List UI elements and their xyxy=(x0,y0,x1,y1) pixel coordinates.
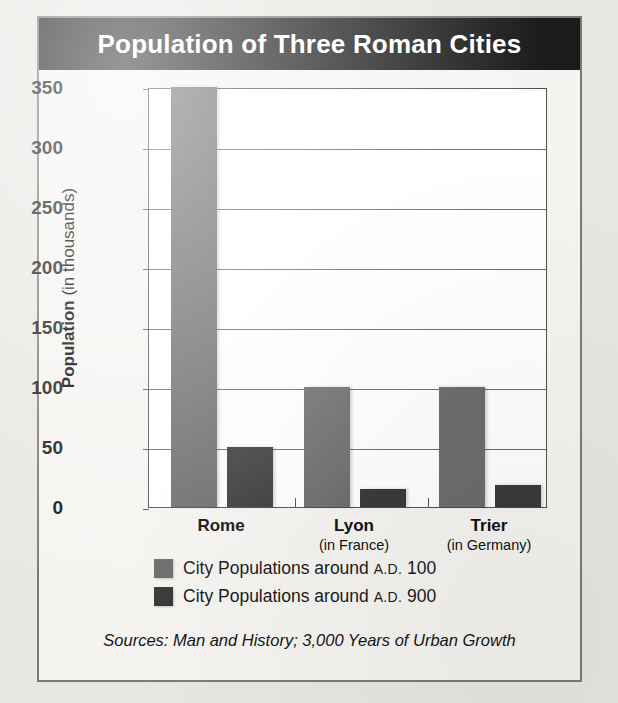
bar-lyon-ad900 xyxy=(360,489,406,507)
y-axis-title: Population (in thousands) xyxy=(59,108,79,468)
y-tick-mark-150 xyxy=(143,329,149,330)
x-label-lyon: Lyon(in France) xyxy=(319,516,389,553)
y-tick-mark-100 xyxy=(143,389,149,390)
y-tick-label-200: 200 xyxy=(3,257,63,279)
source-note: Sources: Man and History; 3,000 Years of… xyxy=(39,631,580,650)
y-tick-label-50: 50 xyxy=(3,437,63,459)
legend-label-prefix: City Populations around xyxy=(183,586,374,606)
legend-swatch-icon xyxy=(154,559,173,578)
legend-label-year: 100 xyxy=(402,558,436,578)
x-label-rome: Rome xyxy=(197,516,244,536)
y-tick-label-0: 0 xyxy=(3,497,63,519)
y-tick-mark-300 xyxy=(143,149,149,150)
legend-label-era: A.D. xyxy=(374,561,402,577)
bar-rome-ad900 xyxy=(227,447,273,507)
y-tick-mark-0 xyxy=(143,509,149,510)
y-tick-mark-350 xyxy=(143,89,149,90)
legend-label-prefix: City Populations around xyxy=(183,558,374,578)
legend-swatch-icon xyxy=(154,587,173,606)
x-label-sub: (in France) xyxy=(319,537,389,553)
bar-trier-ad100 xyxy=(439,387,485,507)
legend-item-ad100: City Populations around A.D. 100 xyxy=(154,558,436,579)
x-tick-mark-0 xyxy=(295,498,296,507)
legend-label-year: 900 xyxy=(402,586,436,606)
x-label-name: Rome xyxy=(197,516,244,536)
y-tick-label-250: 250 xyxy=(3,197,63,219)
legend-label-era: A.D. xyxy=(374,589,402,605)
y-tick-label-150: 150 xyxy=(3,317,63,339)
y-tick-mark-50 xyxy=(143,449,149,450)
y-tick-mark-250 xyxy=(143,209,149,210)
chart-title: Population of Three Roman Cities xyxy=(98,29,522,60)
bar-rome-ad100 xyxy=(171,87,217,507)
y-tick-label-100: 100 xyxy=(3,377,63,399)
y-tick-label-300: 300 xyxy=(3,137,63,159)
chart-title-banner: Population of Three Roman Cities xyxy=(39,18,580,70)
y-tick-label-350: 350 xyxy=(3,77,63,99)
x-tick-mark-1 xyxy=(428,498,429,507)
bar-lyon-ad100 xyxy=(304,387,350,507)
legend-label: City Populations around A.D. 900 xyxy=(183,586,436,607)
chart-legend: City Populations around A.D. 100City Pop… xyxy=(154,558,436,614)
y-axis-title-bold: Population xyxy=(59,300,78,388)
x-label-name: Lyon xyxy=(319,516,389,536)
legend-item-ad900: City Populations around A.D. 900 xyxy=(154,586,436,607)
bar-trier-ad900 xyxy=(495,485,541,507)
x-label-trier: Trier(in Germany) xyxy=(447,516,532,553)
chart-figure: Population of Three Roman Cities Populat… xyxy=(37,16,582,682)
y-tick-mark-200 xyxy=(143,269,149,270)
legend-label: City Populations around A.D. 100 xyxy=(183,558,436,579)
x-label-name: Trier xyxy=(447,516,532,536)
plot-area xyxy=(148,88,547,508)
x-label-sub: (in Germany) xyxy=(447,537,532,553)
